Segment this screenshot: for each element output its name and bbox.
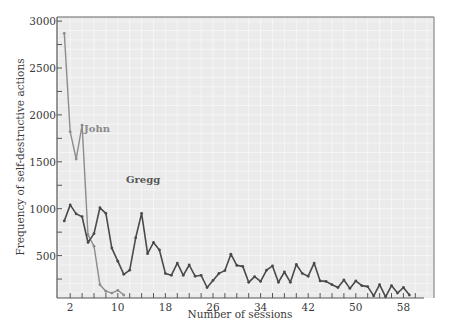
data-point (259, 280, 262, 283)
data-point (253, 275, 256, 278)
data-point (218, 272, 221, 275)
data-point (277, 281, 280, 284)
data-point (271, 265, 274, 268)
data-point (229, 253, 232, 256)
data-point (366, 285, 369, 288)
data-point (164, 272, 167, 275)
y-axis-title: Frequency of self-destructive actions (14, 58, 26, 255)
series-label-john: John (83, 123, 111, 134)
data-point (348, 287, 351, 290)
data-point (408, 294, 411, 297)
data-point (116, 260, 119, 263)
data-point (87, 241, 90, 244)
data-point (289, 281, 292, 284)
y-tick-label: 3000 (29, 15, 56, 27)
data-point (235, 264, 238, 267)
data-point (325, 280, 328, 283)
data-point (390, 284, 393, 287)
y-tick-label: 1500 (29, 156, 56, 168)
data-point (182, 274, 185, 277)
data-point (319, 280, 322, 283)
x-tick-label: 2 (67, 301, 74, 313)
data-point (122, 294, 125, 297)
data-point (128, 269, 131, 272)
data-point (69, 204, 72, 207)
data-point (360, 284, 363, 287)
data-point (343, 279, 346, 282)
data-point (105, 212, 108, 215)
data-point (247, 281, 250, 284)
x-tick-label: 50 (349, 301, 362, 313)
y-tick-label: 500 (36, 250, 56, 262)
y-tick-label: 2000 (29, 109, 56, 121)
data-point (194, 275, 197, 278)
series-label-gregg: Gregg (126, 174, 160, 185)
x-tick-label: 18 (159, 301, 172, 313)
data-point (93, 232, 96, 235)
line-chart: 50010001500200025003000 210182634425058 … (0, 0, 450, 332)
x-axis-title: Number of sessions (188, 308, 293, 320)
data-point (212, 279, 215, 282)
data-point (122, 273, 125, 276)
data-point (396, 292, 399, 295)
data-point (105, 290, 108, 293)
x-tick-label: 10 (111, 301, 124, 313)
data-point (146, 252, 149, 255)
data-point (265, 269, 268, 272)
data-point (116, 289, 119, 292)
data-point (134, 236, 137, 239)
data-point (176, 262, 179, 265)
data-point (99, 283, 102, 286)
data-point (140, 212, 143, 215)
data-point (331, 283, 334, 286)
data-point (75, 158, 78, 161)
data-point (372, 295, 375, 298)
data-point (378, 283, 381, 286)
data-point (152, 241, 155, 244)
x-tick-label: 42 (302, 301, 315, 313)
data-point (158, 249, 161, 252)
data-point (301, 272, 304, 275)
data-point (188, 264, 191, 267)
y-tick-label: 1000 (29, 203, 56, 215)
data-point (354, 280, 357, 283)
data-point (110, 247, 113, 250)
data-point (170, 274, 173, 277)
data-point (93, 245, 96, 248)
data-point (63, 219, 66, 222)
x-tick-label: 58 (397, 301, 410, 313)
data-point (307, 275, 310, 278)
y-tick-label: 2500 (29, 62, 56, 74)
data-point (200, 274, 203, 277)
data-point (75, 212, 78, 215)
data-point (81, 215, 84, 218)
data-point (99, 206, 102, 209)
data-point (402, 286, 405, 289)
data-point (206, 286, 209, 289)
data-point (241, 265, 244, 268)
data-point (63, 32, 66, 35)
data-point (69, 130, 72, 133)
data-point (313, 262, 316, 265)
data-point (224, 269, 227, 272)
data-point (283, 271, 286, 274)
data-point (337, 286, 340, 289)
data-point (110, 292, 113, 295)
data-point (295, 263, 298, 266)
